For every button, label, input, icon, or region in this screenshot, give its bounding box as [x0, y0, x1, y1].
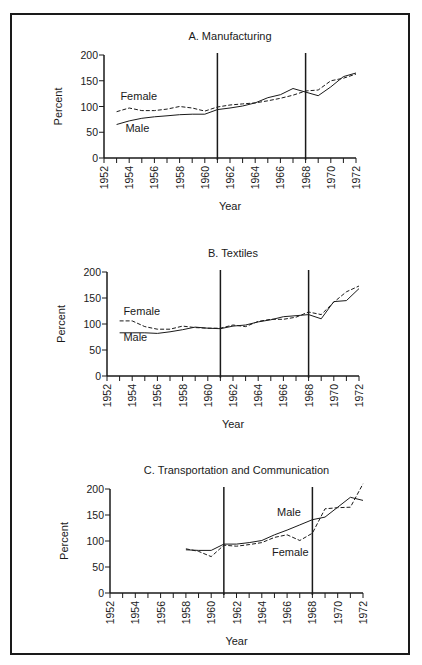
chart-panel-1: A. Manufacturing050100150200195219541956… [52, 30, 362, 212]
x-tick-label: 1972 [350, 166, 362, 190]
y-tick-label: 50 [86, 126, 98, 138]
x-tick-label: 1966 [274, 166, 286, 190]
series-label-female: Female [120, 90, 157, 102]
y-tick-label: 0 [98, 587, 104, 599]
x-tick-label: 1968 [306, 601, 318, 625]
y-tick-label: 150 [80, 75, 98, 87]
x-tick-label: 1954 [123, 166, 135, 190]
x-tick-label: 1952 [98, 166, 110, 190]
chart-title: B. Textiles [208, 247, 258, 259]
y-tick-label: 200 [83, 266, 101, 278]
y-tick-label: 150 [86, 509, 104, 521]
x-tick-label: 1954 [129, 601, 141, 625]
x-tick-label: 1956 [155, 601, 167, 625]
x-tick-label: 1962 [224, 166, 236, 190]
x-tick-label: 1970 [332, 601, 344, 625]
y-tick-label: 150 [83, 292, 101, 304]
x-tick-label: 1962 [231, 601, 243, 625]
x-axis-label: Year [219, 200, 242, 212]
x-tick-label: 1962 [227, 384, 239, 408]
x-tick-label: 1952 [104, 601, 116, 625]
y-tick-label: 0 [95, 370, 101, 382]
chart-title: A. Manufacturing [188, 30, 271, 42]
x-tick-label: 1958 [174, 166, 186, 190]
x-tick-label: 1958 [180, 601, 192, 625]
y-tick-label: 100 [80, 101, 98, 113]
y-tick-label: 200 [86, 483, 104, 495]
x-tick-label: 1972 [357, 601, 369, 625]
series-label-female: Female [272, 546, 309, 558]
x-tick-label: 1966 [281, 601, 293, 625]
series-label-male: Male [125, 122, 149, 134]
x-tick-label: 1960 [202, 384, 214, 408]
x-tick-label: 1956 [148, 166, 160, 190]
x-tick-label: 1964 [252, 384, 264, 408]
y-tick-label: 100 [83, 318, 101, 330]
x-tick-label: 1968 [303, 384, 315, 408]
y-tick-label: 200 [80, 49, 98, 61]
y-tick-label: 100 [86, 535, 104, 547]
y-tick-label: 50 [89, 344, 101, 356]
x-tick-label: 1970 [325, 166, 337, 190]
series-label-male: Male [123, 331, 147, 343]
y-axis-label: Percent [52, 88, 64, 126]
y-tick-label: 0 [92, 152, 98, 164]
chart-panel-3: C. Transportation and Communication05010… [58, 464, 369, 647]
x-tick-label: 1960 [205, 601, 217, 625]
y-tick-label: 50 [92, 561, 104, 573]
x-tick-label: 1960 [199, 166, 211, 190]
series-label-male: Male [277, 506, 301, 518]
x-tick-label: 1966 [277, 384, 289, 408]
x-tick-label: 1968 [300, 166, 312, 190]
x-tick-label: 1958 [177, 384, 189, 408]
chart-title: C. Transportation and Communication [144, 464, 329, 476]
x-tick-label: 1954 [126, 384, 138, 408]
x-tick-label: 1952 [101, 384, 113, 408]
x-tick-label: 1964 [249, 166, 261, 190]
y-axis-label: Percent [55, 305, 67, 343]
x-tick-label: 1956 [151, 384, 163, 408]
x-tick-label: 1972 [353, 384, 365, 408]
x-tick-label: 1964 [256, 601, 268, 625]
x-tick-label: 1970 [328, 384, 340, 408]
chart-panel-2: B. Textiles05010015020019521954195619581… [55, 247, 365, 430]
x-axis-label: Year [225, 635, 248, 647]
x-axis-label: Year [222, 418, 245, 430]
figure-canvas: A. Manufacturing050100150200195219541956… [0, 0, 422, 665]
series-label-female: Female [123, 305, 160, 317]
series-line-male [186, 497, 363, 550]
y-axis-label: Percent [58, 522, 70, 560]
